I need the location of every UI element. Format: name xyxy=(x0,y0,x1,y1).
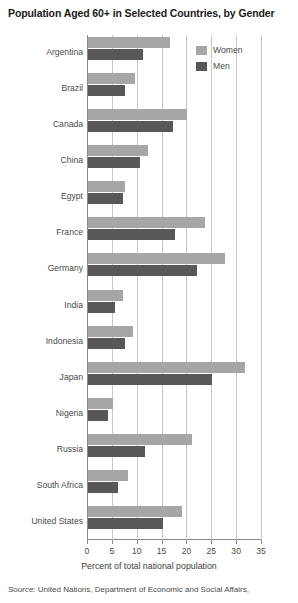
bar-women xyxy=(88,37,170,48)
x-axis-title: Percent of total national population xyxy=(0,561,298,571)
bar-group xyxy=(87,468,262,504)
legend-item-women: Women xyxy=(196,45,242,55)
source-note: Source: United Nations, Department of Ec… xyxy=(8,585,294,595)
bar-men xyxy=(88,229,175,240)
bar-women xyxy=(88,362,245,373)
chart-legend: WomenMen xyxy=(196,45,242,77)
bar-group xyxy=(87,107,262,143)
x-tick-label: 0 xyxy=(85,546,90,556)
bar-men xyxy=(88,338,125,349)
bar-men xyxy=(88,410,108,421)
category-label: Canada xyxy=(3,119,83,129)
bar-group xyxy=(87,179,262,215)
bar-men xyxy=(88,518,163,529)
bar-men xyxy=(88,374,212,385)
category-label: Germany xyxy=(3,263,83,273)
bar-men xyxy=(88,157,140,168)
bar-women xyxy=(88,73,135,84)
bar-men xyxy=(88,49,143,60)
legend-swatch-icon xyxy=(196,62,207,71)
legend-item-men: Men xyxy=(196,61,242,71)
legend-swatch-icon xyxy=(196,46,207,55)
bar-women xyxy=(88,290,123,301)
bar-men xyxy=(88,85,125,96)
x-tick-label: 5 xyxy=(109,546,114,556)
x-tick-label: 30 xyxy=(231,546,241,556)
bar-men xyxy=(88,482,118,493)
x-tick-mark xyxy=(162,540,163,544)
category-label: Brazil xyxy=(3,83,83,93)
x-tick-label: 20 xyxy=(182,546,192,556)
bar-men xyxy=(88,446,145,457)
bar-group xyxy=(87,396,262,432)
bar-group xyxy=(87,324,262,360)
bar-men xyxy=(88,265,197,276)
bar-group xyxy=(87,288,262,324)
bar-women xyxy=(88,217,205,228)
category-label: Russia xyxy=(3,444,83,454)
bar-women xyxy=(88,326,133,337)
x-tick-mark xyxy=(137,540,138,544)
x-tick-label: 35 xyxy=(256,546,266,556)
category-label: Nigeria xyxy=(3,408,83,418)
x-tick-mark xyxy=(87,540,88,544)
bar-men xyxy=(88,302,115,313)
legend-label: Men xyxy=(213,61,230,71)
bar-group xyxy=(87,432,262,468)
category-label: Egypt xyxy=(3,191,83,201)
x-tick-label: 25 xyxy=(207,546,217,556)
bar-women xyxy=(88,470,128,481)
category-label: United States xyxy=(3,516,83,526)
category-label: China xyxy=(3,155,83,165)
category-label: India xyxy=(3,300,83,310)
bar-men xyxy=(88,193,123,204)
category-label: France xyxy=(3,227,83,237)
x-tick-mark xyxy=(211,540,212,544)
bar-women xyxy=(88,253,225,264)
bar-women xyxy=(88,181,125,192)
category-label: Japan xyxy=(3,372,83,382)
bar-group xyxy=(87,504,262,540)
chart-title: Population Aged 60+ in Selected Countrie… xyxy=(8,7,292,19)
source-prefix: Source: xyxy=(8,585,36,594)
source-text: United Nations, Department of Economic a… xyxy=(38,585,249,594)
bar-group xyxy=(87,251,262,287)
legend-label: Women xyxy=(213,45,242,55)
x-tick-mark xyxy=(261,540,262,544)
x-tick-mark xyxy=(186,540,187,544)
bar-men xyxy=(88,121,173,132)
bar-women xyxy=(88,434,192,445)
category-label: Indonesia xyxy=(3,336,83,346)
category-label: Argentina xyxy=(3,47,83,57)
x-tick-mark xyxy=(112,540,113,544)
bar-group xyxy=(87,360,262,396)
category-label: South Africa xyxy=(3,480,83,490)
bar-women xyxy=(88,398,113,409)
plot-area xyxy=(87,35,262,540)
x-tick-label: 15 xyxy=(157,546,167,556)
bar-group xyxy=(87,215,262,251)
bar-women xyxy=(88,109,187,120)
x-tick-label: 10 xyxy=(132,546,142,556)
bar-women xyxy=(88,506,182,517)
bar-women xyxy=(88,145,148,156)
x-tick-mark xyxy=(236,540,237,544)
chart-page: Population Aged 60+ in Selected Countrie… xyxy=(0,0,298,603)
bar-group xyxy=(87,143,262,179)
category-label-column: ArgentinaBrazilCanadaChinaEgyptFranceGer… xyxy=(0,35,83,540)
